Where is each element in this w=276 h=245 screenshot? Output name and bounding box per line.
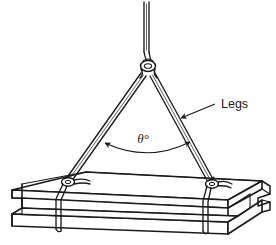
shackle-eye [144, 64, 151, 69]
rigging-diagram: θ° Legs [0, 0, 276, 245]
angle-label: θ° [137, 131, 149, 146]
choker-right-eye-hole [209, 182, 215, 185]
i-beam [12, 172, 270, 234]
legs-label: Legs [221, 97, 248, 111]
choker-left-eye-hole [65, 180, 71, 183]
rigging-illustration: θ° Legs [0, 0, 276, 245]
